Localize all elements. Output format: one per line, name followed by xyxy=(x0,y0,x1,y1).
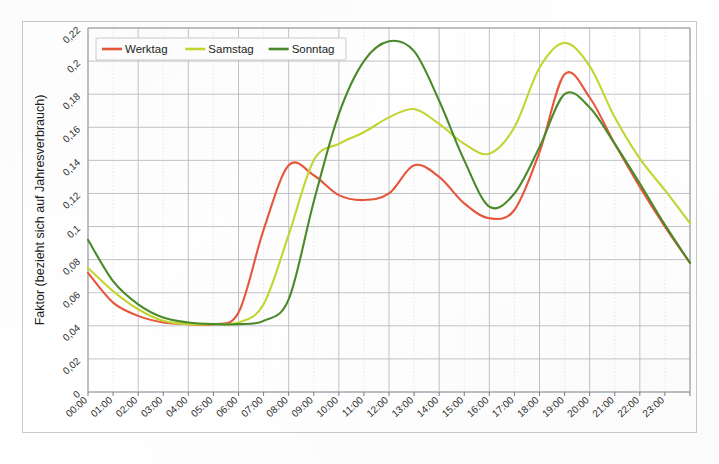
y-axis-tick-label: 0,1 xyxy=(65,223,83,241)
x-axis-tick-label: 12:00 xyxy=(364,394,390,419)
chart-canvas: 00:0001:0002:0003:0004:0005:0006:0007:00… xyxy=(0,0,719,464)
x-axis-tick-label: 11:00 xyxy=(340,394,366,419)
y-axis-tick-label: 0,12 xyxy=(61,189,83,210)
x-axis-tick-label: 10:00 xyxy=(314,394,340,419)
x-axis-tick-label: 17:00 xyxy=(490,394,516,419)
x-axis-tick-label: 20:00 xyxy=(565,394,591,419)
chart-legend: WerktagSamstagSonntag xyxy=(96,38,346,60)
x-axis-tick-label: 16:00 xyxy=(465,394,491,419)
legend-label-sonntag: Sonntag xyxy=(292,43,335,55)
x-axis-tick-label: 22:00 xyxy=(615,394,641,419)
x-axis-tick-label: 14:00 xyxy=(415,394,441,419)
x-axis-tick-label: 01:00 xyxy=(88,394,114,419)
gridlines-major xyxy=(88,28,690,392)
y-axis-tick-label: 0,22 xyxy=(61,24,83,45)
x-axis-tick-label: 08:00 xyxy=(264,394,290,419)
x-axis-tick-label: 09:00 xyxy=(289,394,315,419)
y-axis-tick-labels: 00,020,040,060,080,10,120,140,160,180,20… xyxy=(61,24,83,400)
tick-marks xyxy=(88,392,690,396)
y-axis-tick-label: 0,04 xyxy=(61,322,83,343)
legend-label-samstag: Samstag xyxy=(208,43,253,55)
y-axis-tick-label: 0,08 xyxy=(61,256,83,277)
y-axis-title-label: Faktor (bezieht sich auf Jahresverbrauch… xyxy=(33,95,47,326)
x-axis-tick-label: 05:00 xyxy=(189,394,215,419)
y-axis-title: Faktor (bezieht sich auf Jahresverbrauch… xyxy=(33,95,47,326)
x-axis-tick-label: 21:00 xyxy=(590,394,616,419)
y-axis-tick-label: 0,18 xyxy=(61,90,83,111)
x-axis-tick-label: 04:00 xyxy=(164,394,190,419)
y-axis-tick-label: 0,06 xyxy=(61,289,83,310)
x-axis-tick-labels: 00:0001:0002:0003:0004:0005:0006:0007:00… xyxy=(63,394,666,419)
x-axis-tick-label: 15:00 xyxy=(440,394,466,419)
legend-label-werktag: Werktag xyxy=(125,43,168,55)
x-axis-tick-label: 07:00 xyxy=(239,394,265,419)
x-axis-tick-label: 02:00 xyxy=(114,394,140,419)
y-axis-tick-label: 0,14 xyxy=(61,156,83,177)
chart-figure: 00:0001:0002:0003:0004:0005:0006:0007:00… xyxy=(0,0,719,464)
y-axis-tick-label: 0,02 xyxy=(61,355,83,376)
y-axis-tick-label: 0,16 xyxy=(61,123,83,144)
x-axis-tick-label: 06:00 xyxy=(214,394,240,419)
x-axis-tick-label: 18:00 xyxy=(515,394,541,419)
y-axis-tick-label: 0,2 xyxy=(65,57,83,75)
x-axis-tick-label: 13:00 xyxy=(389,394,415,419)
x-axis-tick-label: 03:00 xyxy=(139,394,165,419)
x-axis-tick-label: 23:00 xyxy=(640,394,666,419)
x-axis-tick-label: 19:00 xyxy=(540,394,566,419)
